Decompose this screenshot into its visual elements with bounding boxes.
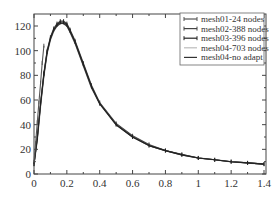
x-tick-label: 0 xyxy=(31,177,37,189)
legend-label: mesh01-24 nodes xyxy=(201,14,265,24)
legend: mesh01-24 nodesmesh02-388 nodesmesh03-39… xyxy=(180,13,269,65)
x-tick-label: 0.6 xyxy=(126,177,140,189)
y-tick-label: 40 xyxy=(20,119,32,131)
legend-label: mesh02-388 nodes xyxy=(201,24,269,34)
x-tick-label: 1.2 xyxy=(224,177,238,189)
y-tick-label: 80 xyxy=(20,69,32,81)
x-tick-label: 0.8 xyxy=(159,177,173,189)
y-tick-label: 60 xyxy=(20,94,32,106)
y-tick-label: 100 xyxy=(15,45,32,57)
legend-label: mesh04-no adapt xyxy=(201,52,263,62)
legend-label: mesh04-703 nodes xyxy=(201,43,269,53)
x-tick-label: 0.2 xyxy=(60,177,74,189)
x-tick-label: 0.4 xyxy=(93,177,107,189)
x-tick-label: 1.4 xyxy=(257,177,271,189)
y-tick-label: 20 xyxy=(20,143,32,155)
y-tick-label: 0 xyxy=(26,168,32,180)
legend-label: mesh03-396 nodes xyxy=(201,33,269,43)
x-tick-label: 1 xyxy=(196,177,202,189)
line-chart: 00.20.40.60.811.21.4 020406080100120 mes… xyxy=(0,0,279,198)
y-tick-label: 120 xyxy=(15,20,32,32)
